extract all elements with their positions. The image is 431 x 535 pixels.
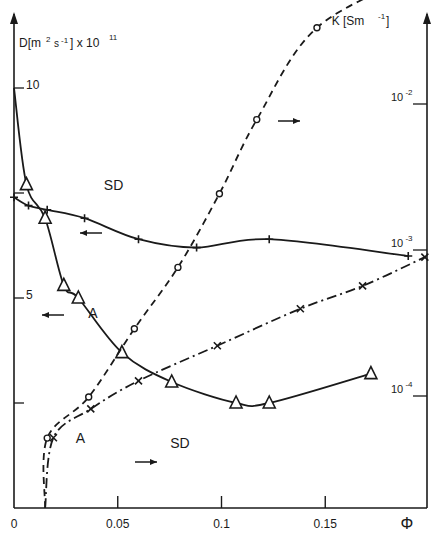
circle-marker-icon — [44, 435, 50, 441]
arrowhead-right-icon — [150, 459, 157, 465]
right-axis-title-sup: -1 — [378, 12, 386, 21]
right-tick-label: 10 — [391, 237, 403, 249]
cross-marker-icon — [87, 405, 94, 412]
triangle-marker-icon — [20, 178, 32, 190]
plus-marker-icon — [404, 252, 412, 260]
circle-marker-icon — [175, 264, 181, 270]
cross-marker-icon — [359, 282, 366, 289]
arrowhead-left-icon — [42, 312, 49, 318]
cross-marker-icon — [50, 434, 57, 441]
left-axis-title-end: ] x 10 — [70, 36, 100, 50]
series-label: A — [88, 305, 98, 321]
right-tick-exponent: -2 — [405, 88, 413, 97]
right-axis-arrow-icon — [423, 12, 431, 24]
right-tick-exponent: -3 — [405, 234, 413, 243]
left-axis-title-sup: 2 — [46, 35, 51, 44]
plus-marker-icon — [135, 235, 143, 243]
x-tick-label: 0.05 — [106, 517, 130, 531]
right-tick-label: 10 — [391, 383, 403, 395]
series-line — [45, 257, 425, 508]
left-axis-arrow-icon — [10, 12, 18, 24]
series-label: SD — [104, 177, 123, 193]
x-tick-label: 0 — [11, 517, 18, 531]
circle-marker-icon — [216, 191, 222, 197]
right-axis-title-end: ] — [386, 14, 389, 28]
labels-layer: 00.050.10.15Φ10510-210-310-4D[m2s-1] x 1… — [11, 12, 414, 532]
left-tick-label: 10 — [26, 78, 40, 92]
x-tick-label: 0.1 — [213, 517, 230, 531]
left-axis-title-sup2: -1 — [61, 36, 69, 45]
plus-marker-icon — [25, 202, 33, 210]
series-layer — [10, 0, 428, 508]
series-line — [43, 0, 420, 508]
arrowhead-right-icon — [293, 118, 300, 124]
left-axis-title-unit2: s — [54, 38, 59, 49]
arrowhead-left-icon — [80, 230, 87, 236]
x-tick-label: 0.15 — [314, 517, 338, 531]
cross-marker-icon — [135, 377, 142, 384]
right-tick-exponent: -4 — [405, 380, 413, 389]
x-axis-label: Φ — [401, 515, 414, 532]
cross-marker-icon — [297, 305, 304, 312]
triangle-marker-icon — [365, 367, 377, 379]
series-label: SD — [170, 435, 189, 451]
triangle-marker-icon — [72, 291, 84, 303]
chart: 00.050.10.15Φ10510-210-310-4D[m2s-1] x 1… — [0, 0, 431, 535]
left-tick-label: 5 — [26, 288, 33, 302]
right-tick-label: 10 — [391, 91, 403, 103]
cross-marker-icon — [214, 342, 221, 349]
circle-marker-icon — [131, 326, 137, 332]
plus-marker-icon — [193, 244, 201, 252]
circle-marker-icon — [254, 117, 260, 123]
series-line — [14, 197, 408, 256]
left-axis-title: D[m — [19, 36, 41, 50]
right-axis-title: K [Sm — [332, 14, 365, 28]
plus-marker-icon — [265, 235, 273, 243]
triangle-marker-icon — [39, 211, 51, 223]
left-axis-title-factor-sup: 11 — [109, 33, 118, 42]
plus-marker-icon — [81, 214, 89, 222]
circle-marker-icon — [86, 394, 92, 400]
series-label: A — [76, 430, 86, 446]
triangle-marker-icon — [58, 278, 70, 290]
circle-marker-icon — [314, 25, 320, 31]
axes — [10, 12, 431, 508]
